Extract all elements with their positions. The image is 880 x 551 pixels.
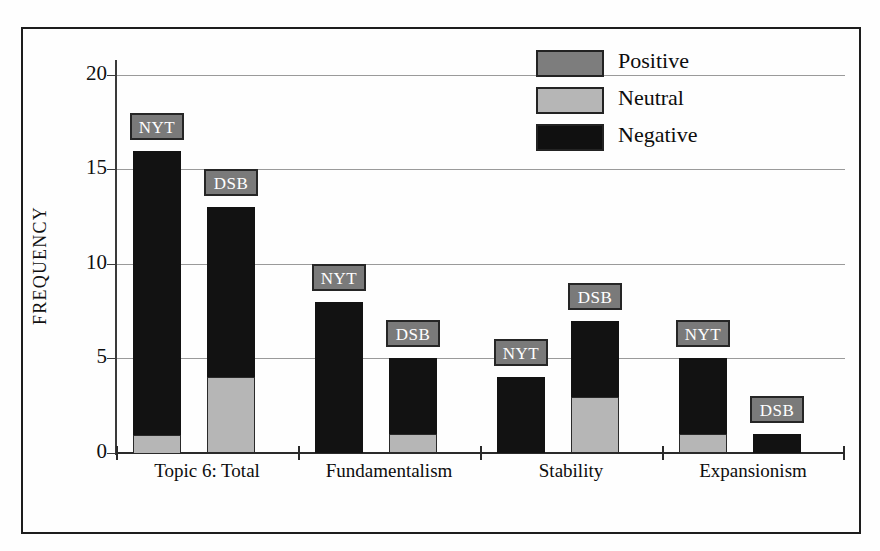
legend-swatch-positive-icon (536, 50, 604, 77)
legend-label-negative: Negative (618, 122, 697, 148)
legend-swatch-neutral-icon (536, 87, 604, 114)
legend-label-positive: Positive (618, 48, 689, 74)
legend-label-neutral: Neutral (618, 85, 684, 111)
legend-swatch-negative-icon (536, 124, 604, 151)
figure-page: 20 15 10 5 0 FREQUENCY NYT (0, 0, 880, 551)
figure-frame (21, 27, 861, 534)
